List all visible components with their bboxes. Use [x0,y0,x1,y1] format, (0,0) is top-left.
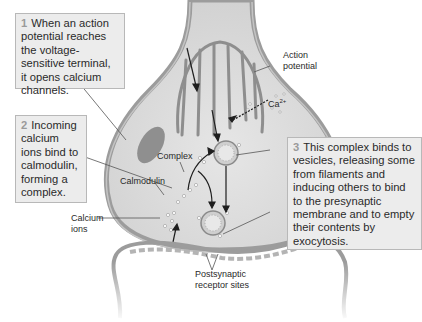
label-calmodulin: Calmodulin [120,176,165,187]
label-line: receptor sites [195,280,249,291]
callout-step-1: 1When an action potential reaches the vo… [15,13,125,89]
label-complex: Complex [157,151,193,162]
label-action-potential: Action potential [283,50,317,71]
label-postsynaptic-receptor-sites: Postsynaptic receptor sites [195,269,249,290]
callout-step-3: 3This complex binds to vesicles, releasi… [287,137,422,250]
callout-text: This complex binds to vesicles, releasin… [293,141,415,247]
label-line: potential [283,61,317,72]
label-text: Complex [157,151,193,161]
step-number: 2 [21,119,27,131]
callout-text: Incoming calcium ions bind to calmodulin… [21,119,78,198]
label-line: Action [283,50,317,61]
label-text: Calmodulin [120,176,165,186]
label-text: Ca [268,99,280,109]
label-calcium-ions: Calcium ions [71,213,104,234]
label-calcium-ion: Ca2+ [268,96,286,110]
step-number: 1 [21,17,27,29]
callout-step-2: 2Incoming calcium ions bind to calmoduli… [15,115,87,203]
label-superscript: 2+ [280,98,287,104]
vesicle-upper [214,141,238,165]
label-line: ions [71,224,104,235]
callout-text: When an action potential reaches the vol… [21,17,111,96]
step-number: 3 [293,141,299,153]
vesicle-lower [201,211,225,235]
label-line: Calcium [71,213,104,224]
label-line: Postsynaptic [195,269,249,280]
